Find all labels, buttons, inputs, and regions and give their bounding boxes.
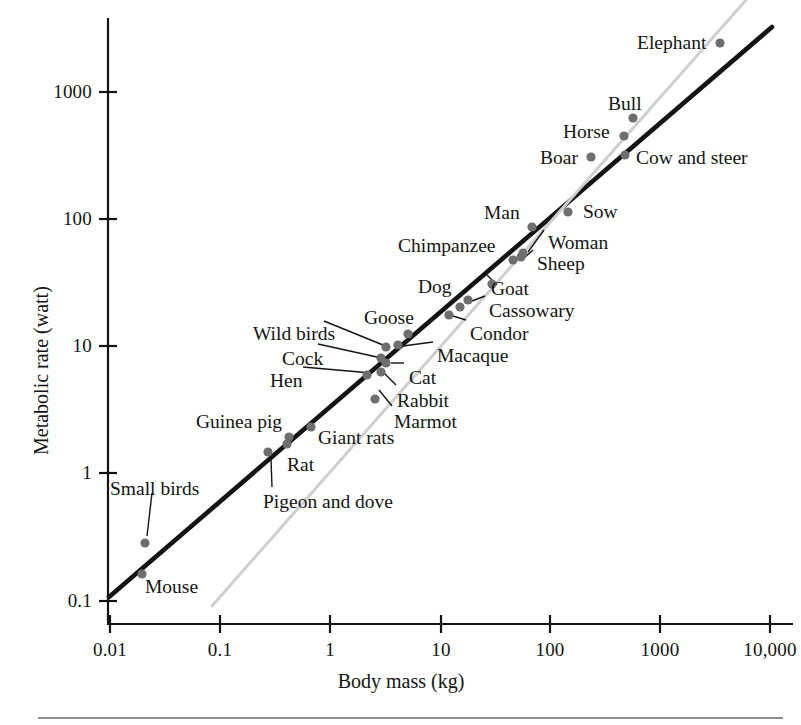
point-label-cow-and-steer: Cow and steer	[636, 148, 748, 168]
y-tick-label: 100	[30, 208, 92, 230]
leader-rabbit	[384, 373, 396, 385]
data-point-man	[527, 222, 536, 231]
x-tick-label: 1	[270, 639, 390, 661]
data-point-woman	[518, 248, 527, 257]
y-tick-label: 1	[30, 462, 92, 484]
data-point-elephant	[715, 38, 724, 47]
point-label-rabbit: Rabbit	[397, 391, 449, 411]
point-label-wild-birds: Wild birds	[253, 324, 335, 344]
point-label-mouse: Mouse	[145, 577, 198, 597]
leader-pigeon-and-dove	[271, 459, 272, 487]
plot-canvas	[0, 0, 801, 725]
point-label-goose: Goose	[364, 308, 414, 328]
point-label-sow: Sow	[583, 202, 618, 222]
light-reference-line	[212, 0, 746, 606]
data-point-wild-birds	[381, 342, 390, 351]
data-point-giant-rats	[306, 422, 315, 431]
point-label-cassowary: Cassowary	[489, 301, 575, 321]
x-tick-label: 10,000	[710, 639, 801, 661]
point-label-sheep: Sheep	[537, 254, 585, 274]
data-point-small-birds	[140, 538, 149, 547]
point-label-hen: Hen	[270, 371, 303, 391]
point-label-boar: Boar	[540, 148, 578, 168]
point-label-guinea-pig: Guinea pig	[196, 412, 282, 432]
data-point-boar	[586, 152, 595, 161]
point-label-goat: Goat	[491, 279, 529, 299]
data-point-cock	[376, 353, 385, 362]
data-point-dog	[455, 302, 464, 311]
x-tick-label: 100	[490, 639, 610, 661]
data-point-cow-and-steer	[620, 150, 629, 159]
data-point-sow	[563, 207, 572, 216]
data-point-pigeon-and-dove	[263, 447, 272, 456]
data-point-bull	[628, 113, 637, 122]
data-point-goose	[403, 329, 412, 338]
x-tick-label: 0.1	[160, 639, 280, 661]
point-label-small-birds: Small birds	[110, 479, 199, 499]
leader-marmot	[379, 390, 392, 406]
y-tick-label: 0.1	[30, 590, 92, 612]
data-point-hen	[362, 370, 371, 379]
data-point-chimpanzee	[508, 255, 517, 264]
x-tick-label: 1000	[600, 639, 720, 661]
x-tick-label: 0.01	[50, 639, 170, 661]
point-label-chimpanzee: Chimpanzee	[398, 236, 495, 256]
point-label-horse: Horse	[563, 122, 610, 142]
trend-lines	[109, 0, 772, 606]
data-point-cassowary	[463, 295, 472, 304]
point-label-condor: Condor	[470, 324, 529, 344]
point-label-cock: Cock	[282, 349, 323, 369]
footer-divider	[38, 717, 783, 719]
data-point-condor	[444, 310, 453, 319]
leader-cock	[318, 344, 377, 357]
point-label-cat: Cat	[409, 368, 436, 388]
point-label-woman: Woman	[548, 233, 608, 253]
point-label-giant-rats: Giant rats	[318, 428, 394, 448]
metabolic-rate-scatter-figure: 10001001010.10.010.1110100100010,000 Sma…	[0, 0, 801, 725]
point-label-bull: Bull	[608, 94, 642, 114]
data-point-rabbit	[376, 367, 385, 376]
point-label-macaque: Macaque	[437, 346, 508, 366]
point-label-elephant: Elephant	[637, 33, 706, 53]
point-label-rat: Rat	[287, 455, 314, 475]
leader-small-birds	[147, 493, 152, 536]
data-point-guinea-pig	[284, 432, 293, 441]
y-axis-title: Metabolic rate (watt)	[30, 286, 53, 455]
y-tick-label: 1000	[30, 81, 92, 103]
x-tick-label: 10	[381, 639, 501, 661]
point-label-dog: Dog	[418, 277, 452, 297]
axis-lines	[107, 18, 793, 625]
point-label-pigeon-and-dove: Pigeon and dove	[263, 492, 393, 512]
data-point-macaque	[393, 340, 402, 349]
x-axis-title: Body mass (kg)	[338, 670, 465, 693]
dark-regression-line	[109, 27, 772, 597]
data-point-marmot	[370, 394, 379, 403]
data-point-horse	[619, 131, 628, 140]
point-label-marmot: Marmot	[394, 412, 457, 432]
point-label-man: Man	[484, 203, 520, 223]
